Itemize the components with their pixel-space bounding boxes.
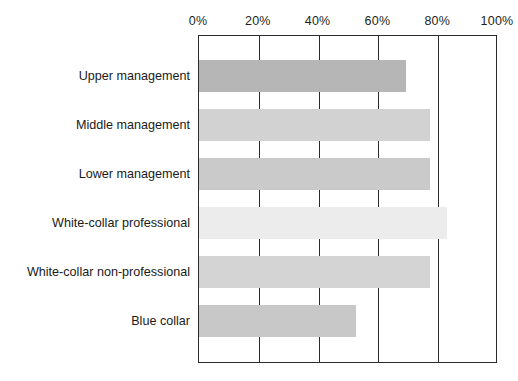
x-tick-label-20: 20% bbox=[245, 14, 271, 28]
y-axis-category-labels: Upper management Middle management Lower… bbox=[0, 35, 198, 363]
bar bbox=[199, 305, 356, 337]
x-tick-label-100: 100% bbox=[481, 14, 514, 28]
category-label-white-collar-professional: White-collar professional bbox=[8, 215, 198, 231]
x-tick-label-40: 40% bbox=[305, 14, 331, 28]
gridline-80 bbox=[438, 36, 439, 362]
category-label-middle-management: Middle management bbox=[8, 117, 198, 133]
bar bbox=[199, 256, 430, 288]
x-tick-label-0: 0% bbox=[189, 14, 207, 28]
bar bbox=[199, 109, 430, 141]
category-label-white-collar-non-professional: White-collar non-professional bbox=[8, 264, 198, 280]
bar bbox=[199, 207, 447, 239]
bar bbox=[199, 158, 430, 190]
x-tick-label-60: 60% bbox=[365, 14, 391, 28]
horizontal-bar-chart: 0% 20% 40% 60% 80% 100% Upper management… bbox=[0, 0, 518, 381]
category-label-blue-collar: Blue collar bbox=[8, 313, 198, 329]
plot-area bbox=[198, 35, 497, 363]
category-label-lower-management: Lower management bbox=[8, 166, 198, 182]
bar bbox=[199, 60, 406, 92]
x-tick-label-80: 80% bbox=[424, 14, 450, 28]
category-label-upper-management: Upper management bbox=[8, 68, 198, 84]
